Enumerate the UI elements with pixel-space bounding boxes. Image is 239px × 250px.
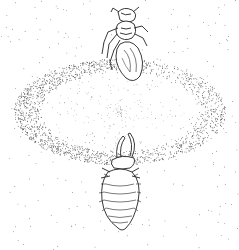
ant-icon [102, 7, 148, 81]
illustration [0, 0, 239, 250]
creatures [0, 0, 239, 250]
antlion-larva-icon [99, 133, 141, 230]
